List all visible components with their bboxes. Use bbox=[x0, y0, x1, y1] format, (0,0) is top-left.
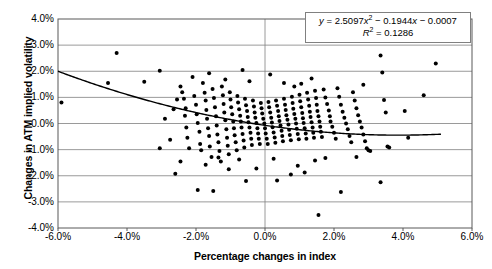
scatter-point bbox=[298, 99, 302, 103]
scatter-point bbox=[260, 112, 264, 116]
scatter-point bbox=[201, 81, 205, 85]
scatter-point bbox=[328, 114, 332, 118]
scatter-point bbox=[253, 116, 257, 120]
scatter-point bbox=[257, 137, 261, 141]
scatter-point bbox=[212, 96, 216, 100]
scatter-point bbox=[313, 89, 317, 93]
scatter-point bbox=[341, 110, 345, 114]
scatter-point bbox=[315, 109, 319, 113]
scatter-point bbox=[380, 71, 384, 75]
scatter-point bbox=[261, 117, 265, 121]
scatter-point bbox=[265, 137, 269, 141]
scatter-point bbox=[382, 98, 386, 102]
scatter-point bbox=[289, 138, 293, 142]
scatter-point bbox=[253, 111, 257, 115]
scatter-point bbox=[280, 129, 284, 133]
scatter-point bbox=[282, 81, 286, 85]
scatter-point bbox=[356, 113, 360, 117]
scatter-point bbox=[204, 108, 208, 112]
scatter-point bbox=[363, 139, 367, 143]
scatter-point bbox=[244, 103, 248, 107]
scatter-point bbox=[349, 140, 353, 144]
scatter-point bbox=[197, 130, 201, 134]
scatter-point bbox=[234, 140, 238, 144]
scatter-point bbox=[304, 137, 308, 141]
scatter-point bbox=[208, 144, 212, 148]
scatter-point bbox=[300, 111, 304, 115]
scatter-point bbox=[318, 125, 322, 129]
scatter-point bbox=[330, 125, 334, 129]
scatter-point bbox=[219, 159, 223, 163]
scatter-point bbox=[241, 132, 245, 136]
scatter-point bbox=[305, 91, 309, 95]
scatter-point bbox=[358, 119, 362, 123]
scatter-point bbox=[258, 142, 262, 146]
scatter-point bbox=[309, 115, 313, 119]
scatter-point bbox=[223, 78, 227, 82]
scatter-point bbox=[215, 124, 219, 128]
scatter-point bbox=[291, 107, 295, 111]
scatter-point bbox=[250, 143, 254, 147]
scatter-point bbox=[224, 127, 228, 131]
scatter-point bbox=[263, 126, 267, 130]
scatter-point bbox=[247, 79, 251, 83]
scatter-point bbox=[246, 115, 250, 119]
scatter-point bbox=[354, 155, 358, 159]
scatter-point bbox=[275, 104, 279, 108]
scatter-point bbox=[280, 134, 284, 138]
scatter-point bbox=[247, 125, 251, 129]
scatter-point bbox=[168, 138, 172, 142]
scatter-point bbox=[242, 146, 246, 150]
scatter-point bbox=[406, 136, 410, 140]
scatter-point bbox=[307, 104, 311, 108]
scatter-point bbox=[268, 72, 272, 76]
scatter-point bbox=[217, 149, 221, 153]
scatter-point bbox=[285, 118, 289, 122]
scatter-point bbox=[323, 95, 327, 99]
scatter-point bbox=[187, 146, 191, 150]
scatter-point bbox=[301, 116, 305, 120]
scatter-point bbox=[434, 61, 438, 65]
scatter-point bbox=[173, 172, 177, 176]
scatter-point bbox=[260, 106, 264, 110]
scatter-point bbox=[241, 68, 245, 72]
scatter-point bbox=[216, 155, 220, 159]
scatter-point bbox=[229, 97, 233, 101]
scatter-point bbox=[316, 114, 320, 118]
scatter-point bbox=[344, 122, 348, 126]
scatter-chart: Changes in ATM implied volatility 4.0%3.… bbox=[0, 0, 492, 269]
scatter-point bbox=[216, 140, 220, 144]
scatter-point bbox=[281, 139, 285, 143]
scatter-point bbox=[277, 114, 281, 118]
scatter-point bbox=[235, 94, 239, 98]
scatter-point bbox=[59, 101, 63, 105]
scatter-point bbox=[337, 95, 341, 99]
scatter-point bbox=[403, 109, 407, 113]
scatter-point bbox=[266, 100, 270, 104]
scatter-point bbox=[230, 112, 234, 116]
scatter-point bbox=[221, 93, 225, 97]
scatter-point bbox=[249, 137, 253, 141]
scatter-point bbox=[180, 90, 184, 94]
scatter-point bbox=[318, 119, 322, 123]
scatter-point bbox=[207, 71, 211, 75]
scatter-point bbox=[178, 159, 182, 163]
scatter-point bbox=[306, 97, 310, 101]
scatter-point bbox=[339, 190, 343, 194]
scatter-point bbox=[163, 117, 167, 121]
scatter-point bbox=[220, 84, 224, 88]
scatter-point bbox=[310, 77, 314, 81]
scatter-point bbox=[228, 90, 232, 94]
scatter-point bbox=[342, 116, 346, 120]
scatter-point bbox=[203, 91, 207, 95]
scatter-point bbox=[286, 123, 290, 127]
scatter-point bbox=[276, 109, 280, 113]
scatter-point bbox=[316, 213, 320, 217]
equation-line: y = 2.5097x2 − 0.1944x − 0.0007 bbox=[310, 15, 466, 27]
scatter-point bbox=[422, 93, 426, 97]
scatter-point bbox=[311, 125, 315, 129]
scatter-point bbox=[334, 137, 338, 141]
scatter-point bbox=[178, 84, 182, 88]
scatter-point bbox=[222, 111, 226, 115]
scatter-point bbox=[207, 134, 211, 138]
